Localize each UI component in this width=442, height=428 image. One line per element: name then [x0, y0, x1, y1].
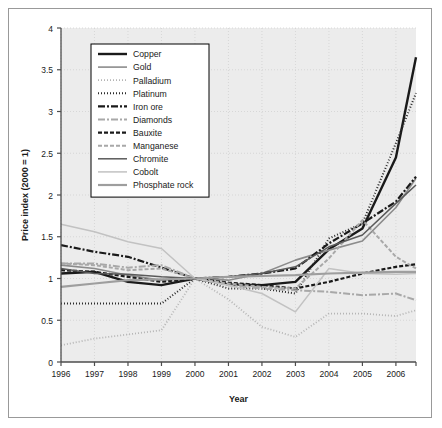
y-tick-label: 0: [48, 358, 53, 368]
y-tick-label: 2.5: [41, 149, 53, 159]
chart-legend: CopperGoldPalladiumPlatinumIron oreDiamo…: [91, 44, 209, 197]
y-tick-label: 3.5: [41, 65, 53, 75]
x-tick-label: 1998: [119, 369, 138, 379]
legend-label-gold: Gold: [133, 62, 152, 72]
x-tick-label: 2003: [286, 369, 305, 379]
legend-label-diamonds: Diamonds: [133, 115, 173, 125]
x-tick-label: 1999: [152, 369, 171, 379]
x-axis-title: Year: [229, 394, 249, 404]
legend-label-cobolt: Cobolt: [133, 167, 159, 177]
y-tick-label: 4: [48, 24, 53, 34]
x-tick-label: 2005: [353, 369, 372, 379]
y-tick-label: 0.5: [41, 316, 53, 326]
legend-label-palladium: Palladium: [133, 76, 171, 86]
chart-svg-wrapper: 00.511.522.533.5419961997199819992000200…: [0, 0, 442, 428]
x-tick-label: 2004: [319, 369, 338, 379]
y-tick-label: 2: [48, 191, 53, 201]
y-tick-label: 1: [48, 274, 53, 284]
price-index-line-chart: 00.511.522.533.5419961997199819992000200…: [0, 0, 442, 428]
y-tick-label: 1.5: [41, 232, 53, 242]
x-tick-label: 2006: [386, 369, 405, 379]
legend-label-manganese: Manganese: [133, 141, 179, 151]
x-tick-label: 2002: [252, 369, 271, 379]
y-axis-title: Price index (2000 = 1): [20, 149, 30, 241]
legend-label-chromite: Chromite: [133, 154, 168, 164]
legend-label-copper: Copper: [133, 49, 162, 59]
legend-label-platinum: Platinum: [133, 89, 167, 99]
x-tick-label: 2001: [219, 369, 238, 379]
legend-label-bauxite: Bauxite: [133, 128, 162, 138]
legend-label-iron-ore: Iron ore: [133, 102, 163, 112]
legend-label-phosphate-rock: Phosphate rock: [133, 180, 194, 190]
y-tick-label: 3: [48, 107, 53, 117]
x-tick-label: 1996: [52, 369, 71, 379]
figure-container: 00.511.522.533.5419961997199819992000200…: [0, 0, 442, 428]
x-tick-label: 1997: [85, 369, 104, 379]
x-tick-label: 2000: [186, 369, 205, 379]
